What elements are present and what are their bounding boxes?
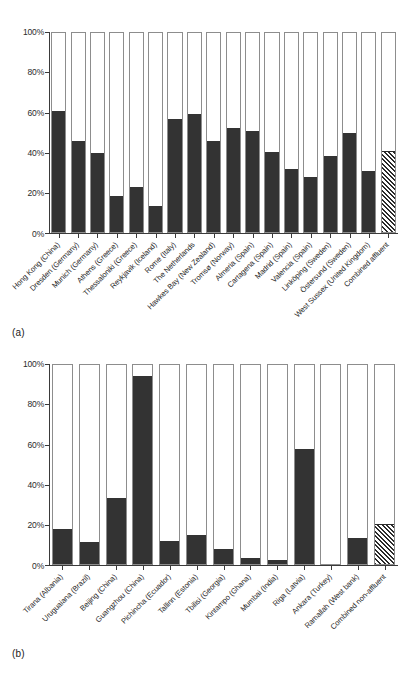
bar-fill <box>53 529 72 564</box>
bar-column <box>71 32 86 233</box>
y-tick-label: 60% <box>4 109 44 118</box>
x-tick-mark <box>78 234 79 238</box>
bar-fill <box>130 187 143 232</box>
bar-column <box>226 32 241 233</box>
x-tick-mark <box>59 234 60 238</box>
bar-fill <box>265 152 278 232</box>
bar-column <box>213 364 234 565</box>
bar-column <box>361 32 376 233</box>
x-tick-mark <box>277 566 278 570</box>
x-tick-mark <box>89 566 90 570</box>
bar-fill <box>304 177 317 232</box>
bar-fill <box>285 169 298 232</box>
bar-column <box>240 364 261 565</box>
bar-column <box>106 364 127 565</box>
x-tick-mark <box>136 234 137 238</box>
x-axis-labels-b: Tirana (Albania)Uruguaiana (Brazil)Beiji… <box>0 571 412 679</box>
x-tick-mark <box>304 566 305 570</box>
x-axis-ticks-a <box>49 234 398 239</box>
chart-panel-b: 100% 80% 60% 40% 20% 0% Tirana (Albania)… <box>0 340 412 679</box>
bar-column <box>294 364 315 565</box>
bar-fill <box>246 131 259 233</box>
x-tick-mark <box>194 234 195 238</box>
x-tick-mark <box>350 234 351 238</box>
x-axis-label: Athens (Greece) <box>76 241 120 285</box>
bar-fill <box>214 549 233 564</box>
y-tick-label: 100% <box>4 360 44 369</box>
x-axis-label: Hawkes Bay (New Zealand) <box>146 241 217 312</box>
x-axis-label: Tirana (Albania) <box>23 573 66 616</box>
x-axis-label: Hong Kong (China) <box>11 241 61 291</box>
x-tick-mark <box>97 234 98 238</box>
x-axis-label: The Netherlands <box>153 241 197 285</box>
bar-column <box>186 364 207 565</box>
y-tick-label: 20% <box>4 521 44 530</box>
x-axis-label: Almeria (Spain) <box>214 241 256 283</box>
x-tick-mark <box>117 234 118 238</box>
y-tick-label: 0% <box>4 230 44 239</box>
x-axis-label: Östersund (Sweden) <box>299 241 353 295</box>
x-tick-mark <box>369 234 370 238</box>
bar-column <box>320 364 341 565</box>
x-axis-label: Combined non-affluent <box>329 573 387 631</box>
y-tick-label: 80% <box>4 68 44 77</box>
bar-column <box>342 32 357 233</box>
bar-fill <box>268 560 287 564</box>
bar-fill <box>295 449 314 564</box>
bar-fill <box>188 114 201 232</box>
bar-fill <box>227 128 240 232</box>
x-axis-label: Madrid (Spain) <box>254 241 294 281</box>
bar-column <box>109 32 124 233</box>
x-axis-label: Thessaloniki (Greece) <box>82 241 139 298</box>
bar-fill <box>382 151 395 232</box>
x-axis-label: Kintampo (Ghana) <box>205 573 253 621</box>
panel-tag-a: (a) <box>12 327 25 338</box>
bar-fill <box>72 141 85 232</box>
x-tick-mark <box>116 566 117 570</box>
x-axis-label: Dresden (Germany) <box>29 241 81 293</box>
y-tick-label: 40% <box>4 481 44 490</box>
bar-column <box>323 32 338 233</box>
bar-column <box>132 364 153 565</box>
bar-fill <box>348 538 367 564</box>
x-axis-label: Beijing (China) <box>79 573 119 613</box>
bar-column <box>374 364 395 565</box>
x-axis-label: West Sussex (United Kingdom) <box>293 241 371 319</box>
x-tick-mark <box>143 566 144 570</box>
x-axis-label: Linköping (Sweden) <box>281 241 333 293</box>
figure-root: 100% 80% 60% 40% 20% 0% Hong Kong (China… <box>0 0 412 679</box>
x-tick-mark <box>175 234 176 238</box>
x-tick-mark <box>214 234 215 238</box>
x-tick-mark <box>197 566 198 570</box>
bar-fill <box>160 541 179 564</box>
y-tick-label: 40% <box>4 149 44 158</box>
x-axis-label: Reykjavik (Iceland) <box>109 241 159 291</box>
x-tick-mark <box>156 234 157 238</box>
x-axis-label: Tromsø (Norway) <box>190 241 236 287</box>
x-axis-label: Ankara (Turkey) <box>291 573 334 616</box>
bar-column <box>129 32 144 233</box>
bar-column <box>159 364 180 565</box>
x-axis-label: Uruguaiana (Brazil) <box>41 573 92 624</box>
x-axis-label: Tbilisi (Georgia) <box>184 573 226 615</box>
bar-column <box>381 32 396 233</box>
x-axis-label: Riga (Latvia) <box>272 573 307 608</box>
bar-column <box>303 32 318 233</box>
bar-series-a <box>49 32 398 233</box>
bar-fill <box>343 133 356 233</box>
bar-column <box>264 32 279 233</box>
bar-series-b <box>49 364 398 565</box>
x-tick-mark <box>331 566 332 570</box>
x-tick-mark <box>233 234 234 238</box>
x-tick-mark <box>250 566 251 570</box>
y-tick-label: 60% <box>4 441 44 450</box>
bar-fill <box>133 376 152 564</box>
x-tick-mark <box>388 234 389 238</box>
panel-tag-b: (b) <box>12 648 25 659</box>
x-tick-mark <box>311 234 312 238</box>
x-axis-label: Rome (Italy) <box>144 241 178 275</box>
bar-fill <box>80 542 99 564</box>
bar-column <box>167 32 182 233</box>
bar-fill <box>149 206 162 232</box>
x-axis-label: Combined affluent <box>343 241 391 289</box>
